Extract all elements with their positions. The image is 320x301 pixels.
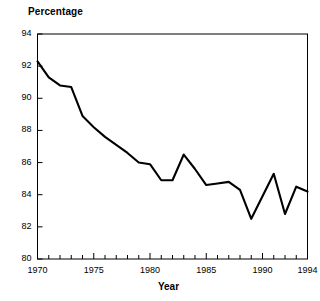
plot-frame <box>38 34 308 259</box>
x-axis-tick-label: 1994 <box>288 265 320 275</box>
x-axis-tick-label: 1985 <box>186 265 226 275</box>
line-chart-plot-area <box>0 0 319 301</box>
y-axis-tick-label: 84 <box>10 189 32 199</box>
y-axis-tick-label: 80 <box>10 253 32 263</box>
x-axis-tick-label: 1970 <box>18 265 58 275</box>
x-axis-title: Year <box>0 281 319 292</box>
x-axis-tick-label: 1980 <box>130 265 170 275</box>
y-axis-tick-label: 82 <box>10 221 32 231</box>
y-axis-tick-label: 94 <box>10 28 32 38</box>
chart-figure: Percentage Year 9492908886848280 1970197… <box>0 0 319 301</box>
y-axis-tick-label: 90 <box>10 92 32 102</box>
x-axis-tick-label: 1990 <box>243 265 283 275</box>
y-axis-tick-label: 92 <box>10 60 32 70</box>
y-axis-tick-label: 86 <box>10 157 32 167</box>
data-series-line <box>38 61 308 219</box>
y-axis-tick-label: 88 <box>10 124 32 134</box>
x-axis-title-text: Year <box>158 281 179 292</box>
x-axis-tick-label: 1975 <box>74 265 114 275</box>
